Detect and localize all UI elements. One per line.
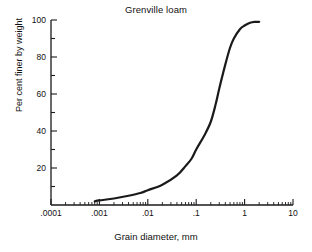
y-tick-label: 60 [22,89,46,99]
y-tick-label: 40 [22,126,46,136]
x-tick-label: .1 [193,208,200,218]
y-tick-label: 20 [22,163,46,173]
x-axis-ticks [51,199,293,205]
chart-figure: Grenville loam Per cent finer by weight … [0,0,312,252]
x-tick-label: .0001 [40,208,61,218]
x-tick-label: .01 [142,208,154,218]
x-tick-label: 1 [242,208,247,218]
y-axis-ticks [51,20,57,187]
x-tick-label: .001 [91,208,108,218]
x-tick-label: 10 [288,208,297,218]
y-tick-label: 80 [22,52,46,62]
data-curve-grenville-loam [95,22,259,202]
y-tick-label: 100 [22,15,46,25]
axes-lines [51,20,293,205]
